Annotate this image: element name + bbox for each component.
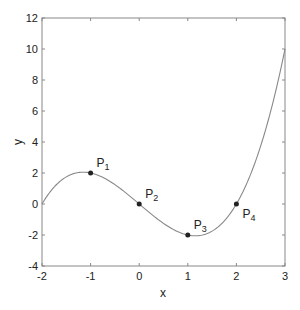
point-label: P4 [242,207,255,223]
y-tick-label: 2 [32,167,38,179]
plot-frame [42,18,285,266]
y-tick-label: 10 [26,43,38,55]
point-label: P2 [145,187,158,203]
x-tick-label: -2 [37,270,47,282]
y-tick-label: 6 [32,105,38,117]
plot-axes: -2-10123-4-2024681012 [26,12,288,282]
x-tick-label: 2 [233,270,239,282]
y-tick-label: -2 [28,229,38,241]
point-label: P3 [194,218,207,234]
y-tick-label: -4 [28,260,38,272]
y-tick-label: 12 [26,12,38,24]
x-axis-label: x [160,286,166,300]
point-label: P1 [97,156,110,172]
y-axis-label: y [11,139,25,145]
x-tick-label: 1 [185,270,191,282]
data-points: P1P2P3P4 [88,156,255,238]
point-marker [88,171,93,176]
x-tick-label: 0 [136,270,142,282]
point-marker [185,233,190,238]
point-marker [137,202,142,207]
y-tick-label: 4 [32,136,38,148]
y-tick-label: 0 [32,198,38,210]
x-tick-label: 3 [282,270,288,282]
chart: -2-10123-4-2024681012 P1P2P3P4 x y [0,0,300,310]
y-tick-label: 8 [32,74,38,86]
point-marker [234,202,239,207]
x-tick-label: -1 [86,270,96,282]
